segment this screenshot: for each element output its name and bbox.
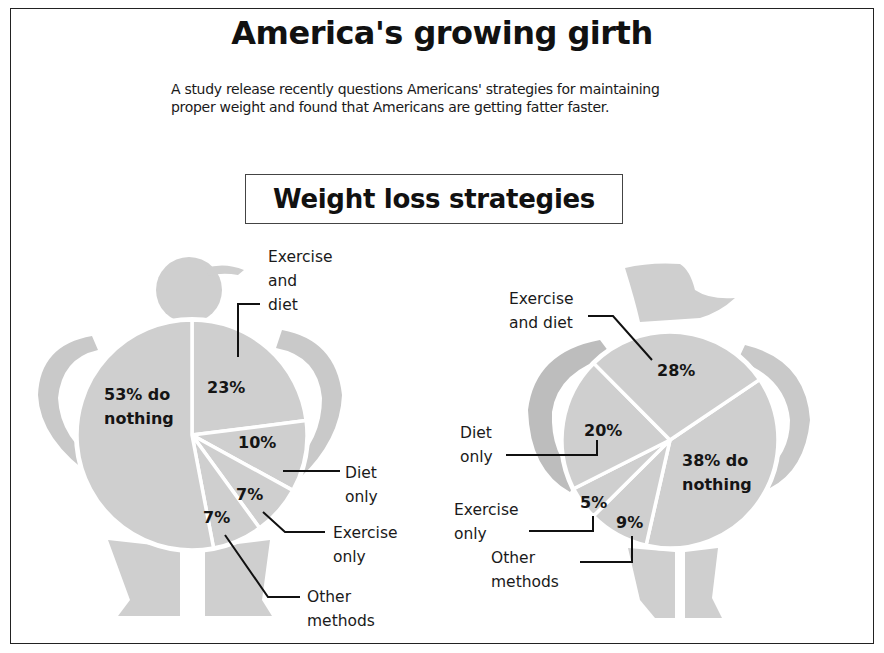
- left-callout-other-2: methods: [307, 612, 375, 630]
- left-callout-other-1: Other: [307, 588, 352, 606]
- right-callout-exercise-diet-1: Exercise: [509, 290, 574, 308]
- left-callout-exercise-diet-2: and: [268, 272, 297, 290]
- right-nothing-label-1: 38% do: [682, 451, 748, 470]
- right-exercise-diet-pct: 28%: [657, 361, 695, 380]
- left-other-pct: 7%: [203, 508, 230, 527]
- right-callout-exercise-2: only: [454, 525, 487, 543]
- right-diet-pct: 20%: [584, 421, 622, 440]
- pie-slice-do-nothing: [77, 320, 214, 550]
- right-nothing-label-2: nothing: [682, 475, 752, 494]
- left-diet-pct: 10%: [238, 433, 276, 452]
- right-other-pct: 9%: [616, 513, 643, 532]
- right-exercise-pct: 5%: [580, 493, 607, 512]
- left-callout-exercise-diet-3: diet: [268, 296, 298, 314]
- charts-canvas: 53% do nothing 23% 10% 7% 7% Exercise an…: [0, 0, 884, 653]
- right-callout-exercise-diet-2: and diet: [509, 314, 573, 332]
- right-callout-other-1: Other: [491, 549, 536, 567]
- left-callout-exercise-2: only: [333, 548, 366, 566]
- right-callout-diet-2: only: [460, 448, 493, 466]
- left-exercise-pct: 7%: [236, 485, 263, 504]
- left-callout-diet-1: Diet: [345, 464, 377, 482]
- left-callout-diet-2: only: [345, 488, 378, 506]
- left-callout-exercise-diet-1: Exercise: [268, 248, 333, 266]
- left-nothing-label-2: nothing: [104, 409, 174, 428]
- right-callout-exercise-1: Exercise: [454, 501, 519, 519]
- left-callout-exercise-1: Exercise: [333, 524, 398, 542]
- left-nothing-label-1: 53% do: [104, 385, 170, 404]
- right-leader-exercise: [529, 516, 593, 531]
- right-callout-other-2: methods: [491, 573, 559, 591]
- right-callout-diet-1: Diet: [460, 424, 492, 442]
- left-exercise-diet-pct: 23%: [207, 378, 245, 397]
